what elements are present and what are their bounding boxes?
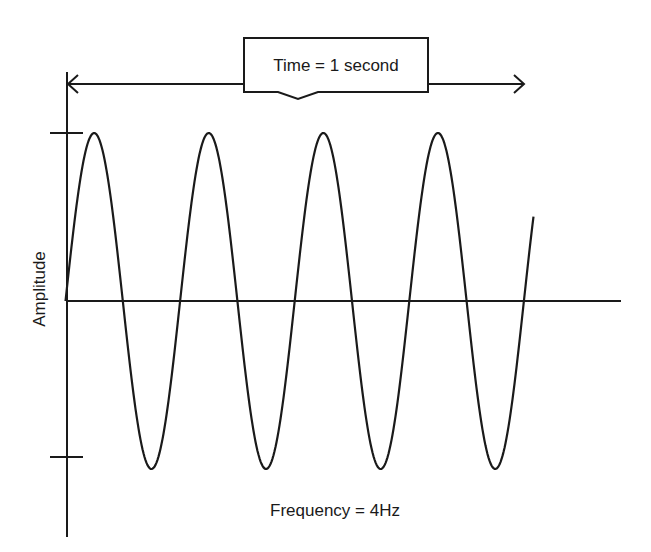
frequency-label: Frequency = 4Hz bbox=[270, 501, 400, 520]
time-callout-label: Time = 1 second bbox=[273, 56, 399, 75]
waveform-diagram: Time = 1 second Amplitude Frequency = 4H… bbox=[0, 0, 651, 552]
amplitude-axis-label: Amplitude bbox=[30, 251, 49, 327]
